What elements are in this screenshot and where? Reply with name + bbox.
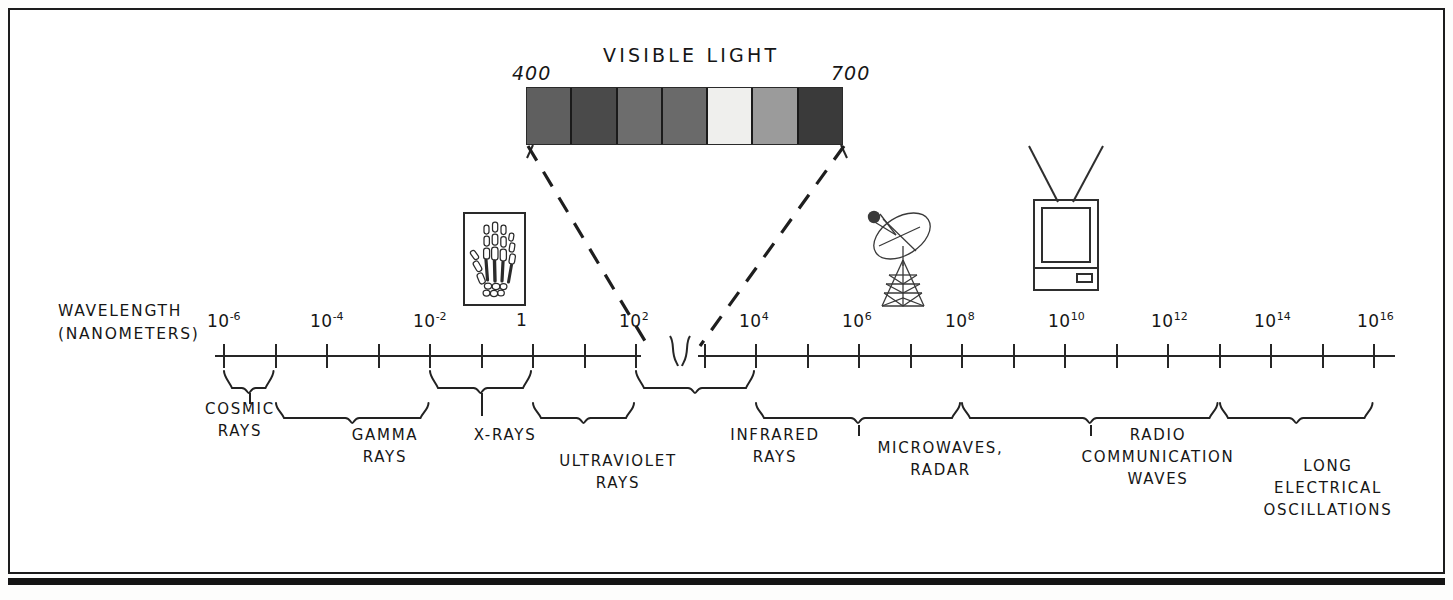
band-label-line1: MICROWAVES,	[858, 437, 1023, 459]
band-label-ultraviolet-rays: ULTRAVIOLET RAYS	[538, 450, 698, 494]
band-label-line1: LONG	[1228, 455, 1428, 477]
band-label-line1: INFRARED	[705, 424, 845, 446]
band-label-x-rays: X-RAYS	[450, 424, 560, 446]
band-label-cosmic-rays: COSMIC RAYS	[180, 398, 300, 442]
brace-infrared-rays	[635, 370, 755, 394]
band-label-line1: GAMMA	[320, 424, 450, 446]
brace-stem-2	[858, 425, 860, 436]
band-label-line2: RADAR	[858, 459, 1023, 481]
band-label-gamma-rays: GAMMA RAYS	[320, 424, 450, 468]
brace-long-electrical-oscillations	[1219, 402, 1374, 424]
brace-cosmic-rays	[223, 370, 275, 394]
band-label-line1: X-RAYS	[450, 424, 560, 446]
band-label-line2: RAYS	[538, 472, 698, 494]
brace-stem-1	[481, 393, 483, 416]
band-label-line3: OSCILLATIONS	[1228, 499, 1428, 521]
brace-radio-communication-waves	[961, 402, 1219, 424]
band-label-line2: RAYS	[320, 446, 450, 468]
band-label-infrared-rays: INFRARED RAYS	[705, 424, 845, 468]
band-label-line1: RADIO	[1053, 424, 1263, 446]
brace-ultraviolet-rays	[532, 402, 635, 424]
brace-x-rays	[429, 370, 532, 394]
band-label-line2: RAYS	[705, 446, 845, 468]
band-label-line1: ULTRAVIOLET	[538, 450, 698, 472]
brace-microwaves-radar	[755, 402, 961, 424]
band-label-line1: COSMIC	[180, 398, 300, 420]
band-label-microwaves-radar: MICROWAVES, RADAR	[858, 437, 1023, 481]
band-label-line2: ELECTRICAL	[1228, 477, 1428, 499]
spectrum-diagram-canvas: VISIBLE LIGHT 400 700	[0, 0, 1453, 600]
band-label-long-electrical-oscillations: LONG ELECTRICAL OSCILLATIONS	[1228, 455, 1428, 521]
band-label-line2: RAYS	[180, 420, 300, 442]
